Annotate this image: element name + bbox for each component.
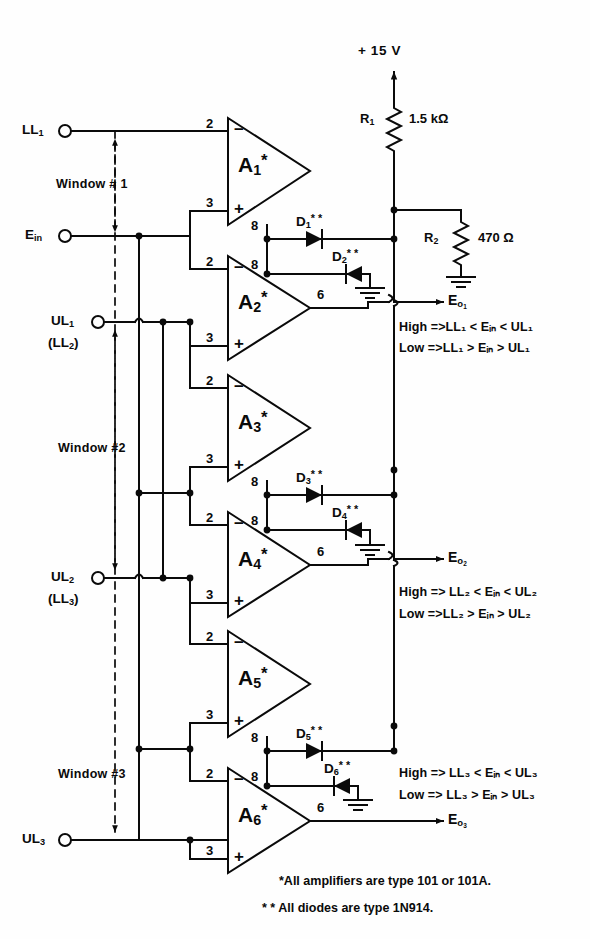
amplifier-a6-label: A6* xyxy=(238,802,268,828)
resistor-r1-value: 1.5 kΩ xyxy=(409,112,448,126)
amplifier-a4-label: A4* xyxy=(238,546,268,572)
a2-pin-6: 6 xyxy=(317,288,324,302)
terminal-ll1-label: LL1 xyxy=(22,123,44,139)
a5-pin-3: 3 xyxy=(206,708,213,722)
a4-pin-3: 3 xyxy=(206,588,213,602)
window-3-low-annotation: Low => LL₃ > Eᵢₙ > UL₃ xyxy=(399,789,535,802)
a2-pin-8: 8 xyxy=(251,258,258,272)
a5-pin-2: 2 xyxy=(206,630,213,644)
output-eo3-label: Eo3 xyxy=(448,812,467,830)
a5-noninverting-sign: + xyxy=(234,712,244,730)
resistor-r2-value: 470 Ω xyxy=(478,231,514,245)
a4-pin-2: 2 xyxy=(206,511,213,525)
a6-pin-8: 8 xyxy=(251,770,258,784)
amplifier-a2-label: A2* xyxy=(238,289,268,315)
a1-noninverting-sign: + xyxy=(234,200,244,218)
a3-pin-2: 2 xyxy=(206,374,213,388)
a5-pin-8: 8 xyxy=(251,731,258,745)
a2-inverting-sign: − xyxy=(234,259,244,277)
schematic-page: + 15 V R1 1.5 kΩ R2 470 Ω LL1 Ein UL1 (L… xyxy=(0,0,590,939)
a2-pin-3: 3 xyxy=(206,331,213,345)
output-eo1-label: Eo1 xyxy=(448,293,467,311)
diode-d3-label: D3* * xyxy=(296,469,322,487)
terminal-ul2-label: UL2 xyxy=(51,570,74,586)
a4-noninverting-sign: + xyxy=(234,592,244,610)
a2-pin-2: 2 xyxy=(206,255,213,269)
a2-noninverting-sign: + xyxy=(234,335,244,353)
resistor-r2-designator: R2 xyxy=(424,231,438,246)
a6-inverting-sign: − xyxy=(234,771,244,789)
resistor-r1-designator: R1 xyxy=(360,112,374,127)
diode-d1-label: D1* * xyxy=(296,213,322,231)
a5-inverting-sign: − xyxy=(234,634,244,652)
a4-inverting-sign: − xyxy=(234,515,244,533)
a1-pin-8: 8 xyxy=(251,219,258,233)
footnote-diodes: * * All diodes are type 1N914. xyxy=(262,902,433,915)
a1-pin-2: 2 xyxy=(206,117,213,131)
terminal-ul3-label: UL3 xyxy=(22,832,45,848)
window-1-label: Window # 1 xyxy=(56,178,128,191)
terminal-ul1-alias-label: (LL2) xyxy=(48,336,79,352)
diode-d6-label: D6* * xyxy=(324,760,350,778)
a6-noninverting-sign: + xyxy=(234,848,244,866)
footnote-amplifiers: *All amplifiers are type 101 or 101A. xyxy=(279,875,491,888)
window-1-low-annotation: Low =>LL₁ > Eᵢₙ > UL₁ xyxy=(399,342,530,355)
a3-pin-3: 3 xyxy=(206,452,213,466)
diode-d5-label: D5* * xyxy=(296,725,322,743)
amplifier-a5-label: A5* xyxy=(238,665,268,691)
window-2-label: Window #2 xyxy=(58,442,126,455)
amplifier-a3-label: A3* xyxy=(238,409,268,435)
output-eo2-label: Eo2 xyxy=(448,550,467,568)
a1-inverting-sign: − xyxy=(234,121,244,139)
terminal-ul2-alias-label: (LL3) xyxy=(48,592,79,608)
a6-pin-2: 2 xyxy=(206,767,213,781)
amplifier-a1-label: A1* xyxy=(238,152,268,178)
supply-voltage-label: + 15 V xyxy=(358,44,401,58)
a3-pin-8: 8 xyxy=(251,475,258,489)
a6-pin-6: 6 xyxy=(317,801,324,815)
terminal-ein-label: Ein xyxy=(25,228,42,244)
a1-pin-3: 3 xyxy=(206,196,213,210)
window-2-low-annotation: Low =>LL₂ > Eᵢₙ > UL₂ xyxy=(399,608,531,621)
diode-d4-label: D4* * xyxy=(332,504,358,522)
a3-inverting-sign: − xyxy=(234,378,244,396)
diode-d2-label: D2* * xyxy=(332,248,358,266)
a4-pin-6: 6 xyxy=(317,545,324,559)
window-3-label: Window #3 xyxy=(58,768,126,781)
terminal-ul1-label: UL1 xyxy=(51,314,74,330)
window-1-high-annotation: High =>LL₁ < Eᵢₙ < UL₁ xyxy=(399,321,533,334)
window-2-high-annotation: High => LL₂ < Eᵢₙ < UL₂ xyxy=(399,586,537,599)
a6-pin-3: 3 xyxy=(206,844,213,858)
window-3-high-annotation: High => LL₃ < Eᵢₙ < UL₃ xyxy=(399,767,538,780)
a3-noninverting-sign: + xyxy=(234,456,244,474)
a4-pin-8: 8 xyxy=(251,514,258,528)
